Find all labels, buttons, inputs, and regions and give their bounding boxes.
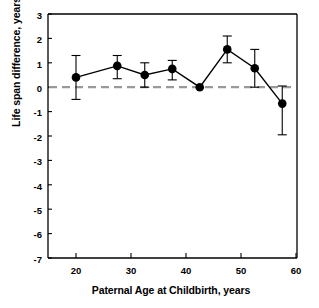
error-bars: [72, 36, 287, 135]
data-point: [140, 71, 149, 80]
data-line: [76, 49, 282, 103]
data-point: [250, 64, 259, 73]
data-point: [278, 99, 287, 108]
data-point: [113, 62, 122, 71]
data-point: [223, 45, 232, 54]
plot-area: [0, 0, 319, 308]
data-point: [168, 65, 177, 74]
chart-figure: Life span difference, years Paternal Age…: [0, 0, 319, 308]
data-point: [72, 73, 81, 82]
data-point: [195, 83, 204, 92]
x-axis-ticks: [76, 253, 296, 258]
axis-frame: [48, 14, 297, 258]
